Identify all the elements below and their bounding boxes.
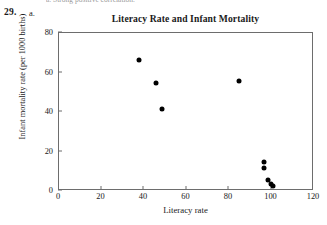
data-point <box>270 184 275 189</box>
y-tick-mark <box>58 111 62 112</box>
x-tick-mark <box>143 186 144 190</box>
x-tick-label: 100 <box>258 192 284 201</box>
x-tick-label: 80 <box>215 192 241 201</box>
data-point <box>262 160 267 165</box>
x-tick-label: 0 <box>45 192 71 201</box>
y-tick-mark <box>58 150 62 151</box>
y-tick-label: 80 <box>31 28 53 37</box>
y-tick-label: 20 <box>31 146 53 155</box>
y-tick-label: 60 <box>31 67 53 76</box>
y-tick-mark <box>58 190 62 191</box>
x-axis-label: Literacy rate <box>58 205 313 215</box>
data-point <box>160 107 165 112</box>
x-tick-label: 20 <box>88 192 114 201</box>
chart-title: Literacy Rate and Infant Mortality <box>58 13 313 24</box>
data-point <box>153 81 158 86</box>
x-tick-mark <box>185 186 186 190</box>
y-tick-label: 40 <box>31 107 53 116</box>
data-point <box>262 166 267 171</box>
x-tick-label: 120 <box>300 192 326 201</box>
y-tick-mark <box>58 71 62 72</box>
x-tick-label: 40 <box>130 192 156 201</box>
problem-number: 29. <box>4 7 16 17</box>
x-tick-label: 60 <box>173 192 199 201</box>
cut-off-previous-answer: a. Strong positive correlation. <box>46 0 246 5</box>
x-tick-mark <box>100 186 101 190</box>
data-point <box>136 57 141 62</box>
data-point <box>236 79 241 84</box>
figure-container: a. Strong positive correlation. 29. a. L… <box>0 0 327 225</box>
y-tick-mark <box>58 32 62 33</box>
y-axis-label: Infant mortality rate (per 1000 births) <box>18 0 27 167</box>
x-tick-mark <box>228 186 229 190</box>
problem-part-label: a. <box>29 8 35 18</box>
plot-area <box>58 32 313 190</box>
